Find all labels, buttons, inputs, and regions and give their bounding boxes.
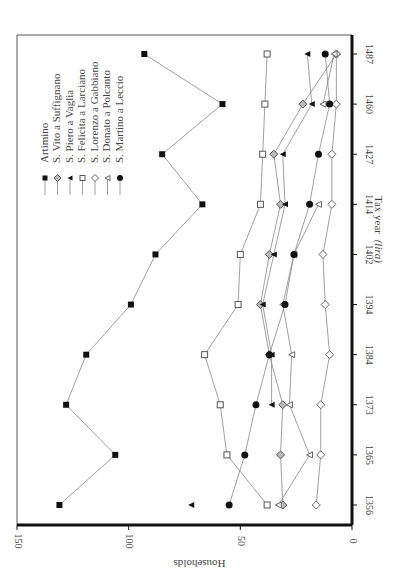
category-tick-label: 1394 bbox=[364, 295, 375, 315]
data-point bbox=[257, 201, 263, 207]
data-point bbox=[159, 151, 165, 157]
legend-item: S. Lorenzo a Gabbiano bbox=[88, 61, 100, 195]
series-s-felicita-a-larciano bbox=[202, 51, 271, 508]
legend-marker bbox=[105, 176, 110, 181]
data-point bbox=[128, 302, 134, 308]
marker-shape bbox=[241, 451, 248, 458]
series-line-segment bbox=[131, 254, 156, 304]
series-line-segment bbox=[238, 254, 240, 304]
data-point bbox=[264, 51, 270, 57]
series-line-segment bbox=[325, 305, 329, 355]
legend-label: S. Felicita a Larciano bbox=[75, 68, 87, 163]
series-line-segment bbox=[323, 254, 325, 304]
data-point bbox=[266, 351, 273, 358]
category-tick-label: 1414 bbox=[364, 194, 375, 214]
legend-label: Artimino bbox=[38, 122, 50, 163]
marker-shape bbox=[83, 352, 89, 358]
data-point bbox=[290, 251, 297, 258]
data-point bbox=[224, 452, 230, 458]
legend-marker bbox=[43, 176, 48, 181]
marker-shape bbox=[56, 502, 62, 508]
series-line-segment bbox=[321, 355, 330, 405]
data-point bbox=[202, 352, 208, 358]
series-line-segment bbox=[289, 405, 309, 455]
marker-shape bbox=[321, 301, 329, 309]
series-line-segment bbox=[220, 405, 227, 455]
data-point bbox=[306, 201, 313, 208]
marker-shape bbox=[152, 251, 158, 257]
marker-shape bbox=[117, 175, 123, 181]
series-line-segment bbox=[269, 305, 285, 355]
legend-label: S. Vito a Suffignano bbox=[50, 73, 62, 163]
marker-shape bbox=[319, 250, 327, 258]
marker-shape bbox=[217, 402, 223, 408]
legend-label: S. Donato a Polcanto bbox=[100, 70, 112, 163]
marker-shape bbox=[270, 150, 278, 158]
marker-shape bbox=[316, 201, 322, 207]
data-point bbox=[332, 100, 340, 108]
data-point bbox=[307, 452, 313, 458]
category-tick-label: 1373 bbox=[364, 395, 375, 415]
data-point bbox=[141, 51, 147, 57]
series-line-segment bbox=[59, 455, 115, 505]
x-axis-title-unit: (lira) bbox=[372, 240, 385, 264]
marker-shape bbox=[202, 352, 208, 358]
marker-shape bbox=[188, 502, 194, 508]
value-ticks: 050100150 bbox=[13, 525, 359, 549]
series-line-segment bbox=[274, 104, 303, 154]
marker-shape bbox=[315, 151, 322, 158]
marker-shape bbox=[326, 351, 334, 359]
marker-shape bbox=[105, 176, 110, 181]
marker-shape bbox=[226, 502, 233, 509]
marker-shape bbox=[320, 101, 326, 107]
series-line-segment bbox=[281, 455, 283, 505]
marker-shape bbox=[80, 176, 85, 181]
marker-shape bbox=[328, 200, 336, 208]
series-line-segment bbox=[283, 154, 285, 204]
data-point bbox=[277, 451, 285, 459]
series-line-segment bbox=[285, 254, 294, 304]
legend-marker bbox=[117, 175, 123, 181]
data-point bbox=[315, 151, 322, 158]
series-line-segment bbox=[283, 104, 312, 154]
y-axis-title: Households bbox=[174, 558, 226, 570]
category-tick-label: 1487 bbox=[364, 44, 375, 64]
data-point bbox=[275, 502, 281, 508]
marker-shape bbox=[112, 452, 118, 458]
series-line-segment bbox=[263, 104, 265, 154]
marker-shape bbox=[326, 101, 333, 108]
data-point bbox=[282, 301, 289, 308]
legend-marker bbox=[92, 175, 99, 182]
legend-item: S. Martino a Leccio bbox=[113, 75, 125, 195]
data-point bbox=[262, 101, 268, 107]
series-line-segment bbox=[205, 305, 239, 355]
legend-label: S. Lorenzo a Gabbiano bbox=[88, 61, 100, 163]
value-tick-label: 50 bbox=[236, 536, 247, 546]
value-tick-label: 150 bbox=[13, 534, 24, 549]
legend-item: S. Felicita a Larciano bbox=[75, 68, 87, 195]
data-point bbox=[299, 100, 307, 108]
marker-shape bbox=[306, 201, 313, 208]
marker-shape bbox=[128, 302, 134, 308]
series-line-segment bbox=[260, 305, 269, 355]
series-line-segment bbox=[316, 455, 320, 505]
marker-shape bbox=[264, 502, 270, 508]
data-point bbox=[316, 201, 322, 207]
series-line-segment bbox=[227, 455, 267, 505]
data-point bbox=[317, 401, 325, 409]
data-point bbox=[260, 151, 266, 157]
series-line-segment bbox=[289, 355, 291, 405]
data-point bbox=[321, 301, 329, 309]
marker-shape bbox=[282, 301, 289, 308]
series-s-martino-a-leccio bbox=[226, 51, 333, 509]
series-line-segment bbox=[155, 204, 202, 254]
series-line-segment bbox=[66, 355, 86, 405]
series-line-segment bbox=[274, 204, 285, 254]
data-point bbox=[241, 451, 248, 458]
marker-shape bbox=[235, 302, 241, 308]
series-line-segment bbox=[86, 305, 131, 355]
series-line-segment bbox=[310, 154, 319, 204]
series-line-segment bbox=[323, 54, 334, 104]
marker-shape bbox=[260, 151, 266, 157]
series-line-segment bbox=[256, 355, 269, 405]
